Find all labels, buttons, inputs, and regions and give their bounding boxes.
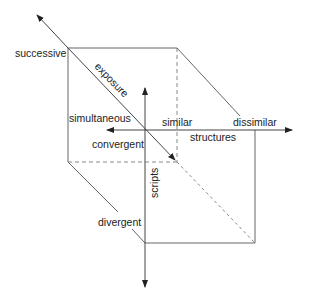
label-simultaneous: simultaneous xyxy=(69,112,131,124)
label-dissimilar: dissimilar xyxy=(233,116,277,128)
label-scripts: scripts xyxy=(148,168,160,198)
label-structures: structures xyxy=(190,131,236,143)
front-face xyxy=(145,130,255,243)
label-convergent: convergent xyxy=(92,138,144,150)
cube-diagram: successive exposure simultaneous similar… xyxy=(0,0,311,299)
label-divergent: divergent xyxy=(98,216,141,228)
label-successive: successive xyxy=(15,47,67,59)
label-similar: similar xyxy=(162,116,193,128)
